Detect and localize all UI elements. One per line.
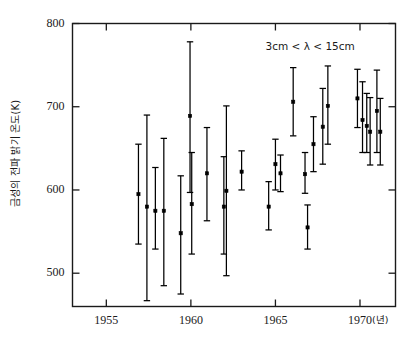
data-point-12 — [272, 139, 278, 190]
data-point-20 — [354, 69, 360, 127]
y-tick-label-600: 600 — [31, 182, 65, 197]
data-point-18 — [320, 88, 326, 164]
data-point-17 — [310, 117, 316, 172]
x-tick-label-1955: 1955 — [84, 313, 128, 328]
venus-brightness-temperature-chart: 금성의 전파 밝기 온도(K) (년) 500600700800 1955196… — [0, 0, 414, 342]
chart-annotation-wavelength-range: 3cm < λ < 15cm — [266, 40, 355, 52]
data-point-22 — [364, 93, 370, 152]
data-point-23 — [367, 98, 373, 165]
data-point-25 — [377, 98, 383, 165]
data-point-15 — [302, 153, 308, 194]
data-point-24 — [374, 70, 380, 152]
data-point-3 — [161, 138, 167, 285]
y-tick-label-700: 700 — [31, 99, 65, 114]
x-tick-label-1965: 1965 — [253, 313, 297, 328]
y-tick-label-500: 500 — [31, 265, 65, 280]
data-point-21 — [359, 82, 365, 153]
data-point-16 — [304, 205, 310, 249]
data-point-13 — [277, 155, 283, 192]
data-point-1 — [144, 115, 150, 301]
data-series-points — [135, 42, 383, 301]
data-point-7 — [204, 128, 210, 221]
x-tick-label-1970: 1970 — [338, 313, 382, 328]
data-point-10 — [238, 151, 244, 190]
x-tick-label-1960: 1960 — [169, 313, 213, 328]
data-point-0 — [135, 144, 141, 244]
data-point-4 — [178, 176, 184, 294]
data-point-19 — [325, 66, 331, 144]
axis-ticks — [73, 24, 396, 307]
data-point-2 — [152, 167, 158, 249]
data-point-14 — [290, 68, 296, 136]
data-point-11 — [265, 182, 271, 230]
y-tick-label-800: 800 — [31, 16, 65, 31]
plot-frame — [73, 24, 396, 307]
axis-frame — [73, 24, 396, 307]
